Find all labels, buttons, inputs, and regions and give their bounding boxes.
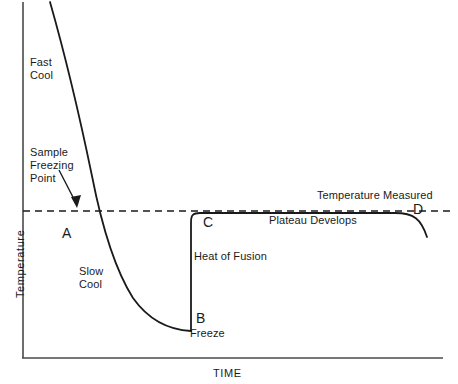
cooling-curve-figure: Fast Cool Sample Freezing Point A Slow C… xyxy=(0,0,458,384)
point-a-label: A xyxy=(62,226,71,241)
x-axis-title: TIME xyxy=(213,367,242,380)
y-axis-title: Temperature xyxy=(14,230,27,298)
sample-freezing-point-label-line1: Sample xyxy=(30,146,68,159)
point-b-label: B xyxy=(196,311,205,326)
fast-cool-label-line2: Cool xyxy=(30,69,53,82)
fast-cool-label-line1: Fast xyxy=(30,56,52,69)
watermark-artifact-right xyxy=(310,62,313,78)
slow-cool-label-line2: Cool xyxy=(79,278,102,291)
point-c-label: C xyxy=(203,215,213,230)
watermark-artifact-left xyxy=(135,58,138,74)
plateau-develops-label: Plateau Develops xyxy=(269,214,357,227)
heat-of-fusion-label: Heat of Fusion xyxy=(194,250,267,263)
point-d-label: D xyxy=(413,202,423,217)
slow-cool-label-line1: Slow xyxy=(79,265,103,278)
sample-freezing-point-label-line2: Freezing xyxy=(30,159,74,172)
sample-freezing-point-label-line3: Point xyxy=(30,172,56,185)
sample-freezing-point-arrow-head xyxy=(71,195,81,208)
freeze-label: Freeze xyxy=(190,327,225,340)
